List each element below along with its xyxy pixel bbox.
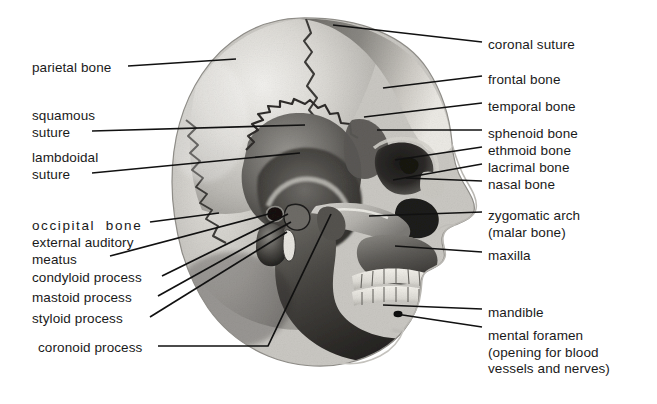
leader-temporal-bone [364,103,482,117]
label-squamous-suture: squamous suture [32,108,95,141]
leader-coronoid-process [158,214,331,346]
label-sphenoid-bone: sphenoid bone [488,126,578,143]
leader-condyloid-process [162,214,288,276]
label-external-auditory-meatus: external auditory meatus [32,235,134,268]
label-ethmoid-bone: ethmoid bone [488,143,571,160]
label-condyloid-process: condyloid process [32,270,142,287]
label-styloid-process: styloid process [32,311,123,328]
leader-lambdoidal-suture [92,153,300,173]
leader-frontal-bone [383,76,482,88]
label-coronoid-process: coronoid process [38,340,142,357]
label-mastoid-process: mastoid process [32,290,132,307]
label-nasal-bone: nasal bone [488,177,555,194]
leader-maxilla [395,246,482,252]
leader-zygomatic-arch [369,212,482,216]
skull-anatomy-figure: parietal bonesquamous suturelambdoidal s… [0,0,657,404]
leader-mental-foramen [396,314,482,327]
label-zygomatic-arch: zygomatic arch (malar bone) [488,208,580,241]
leader-occipital-bone [150,213,219,222]
label-lambdoidal-suture: lambdoidal suture [32,150,98,183]
leader-nasal-bone [406,178,482,181]
leader-parietal-bone [128,59,236,66]
leader-mandible [383,305,482,309]
leader-ethmoid-bone [395,147,482,160]
label-occipital-bone: occipital bone [32,218,142,235]
label-lacrimal-bone: lacrimal bone [488,160,570,177]
label-temporal-bone: temporal bone [488,99,576,116]
leader-mastoid-process [158,222,291,296]
leader-styloid-process [150,232,287,317]
label-frontal-bone: frontal bone [488,72,561,89]
label-parietal-bone: parietal bone [32,60,111,77]
label-maxilla: maxilla [488,248,531,265]
leader-coronal-suture [333,25,482,42]
label-coronal-suture: coronal suture [488,37,575,54]
label-mandible: mandible [488,305,544,322]
leader-squamous-suture [92,125,305,131]
label-mental-foramen: mental foramen (opening for blood vessel… [488,328,610,378]
